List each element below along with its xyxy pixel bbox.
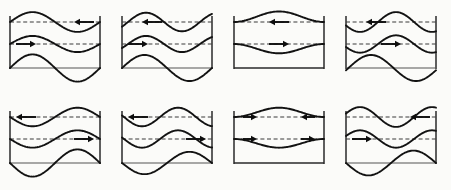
flow-arrow-head [251, 114, 257, 121]
upper-interface-curve [234, 108, 324, 117]
flow-arrow-head [30, 41, 36, 48]
flow-arrow-head [366, 19, 372, 26]
flow-arrow-head [142, 19, 148, 26]
panel-row-bottom [0, 95, 451, 190]
flow-arrow-head [269, 19, 275, 26]
flow-arrow-head [74, 19, 80, 26]
flow-arrow-head [88, 136, 94, 143]
wave-diagram-figure [0, 0, 451, 190]
flow-arrow-head [16, 114, 22, 121]
upper-interface-curve [234, 11, 324, 22]
wave-panel-7 [226, 95, 336, 190]
flow-arrow-head [142, 41, 148, 48]
flow-arrow-head [200, 136, 206, 143]
flow-arrow-head [283, 41, 289, 48]
wave-panel-4 [338, 0, 448, 95]
wave-panel-2 [114, 0, 224, 95]
wave-panel-6 [114, 95, 224, 190]
flow-arrow-head [301, 114, 307, 121]
flow-arrow-head [128, 114, 134, 121]
wave-panel-1 [2, 0, 112, 95]
panel-row-top [0, 0, 451, 95]
flow-arrow-head [366, 136, 372, 143]
wave-panel-3 [226, 0, 336, 95]
wave-panel-8 [338, 95, 448, 190]
wave-panel-5 [2, 95, 112, 190]
lower-interface-curve [234, 44, 324, 53]
flow-arrow-head [395, 41, 401, 48]
flow-arrow-head [251, 136, 257, 143]
